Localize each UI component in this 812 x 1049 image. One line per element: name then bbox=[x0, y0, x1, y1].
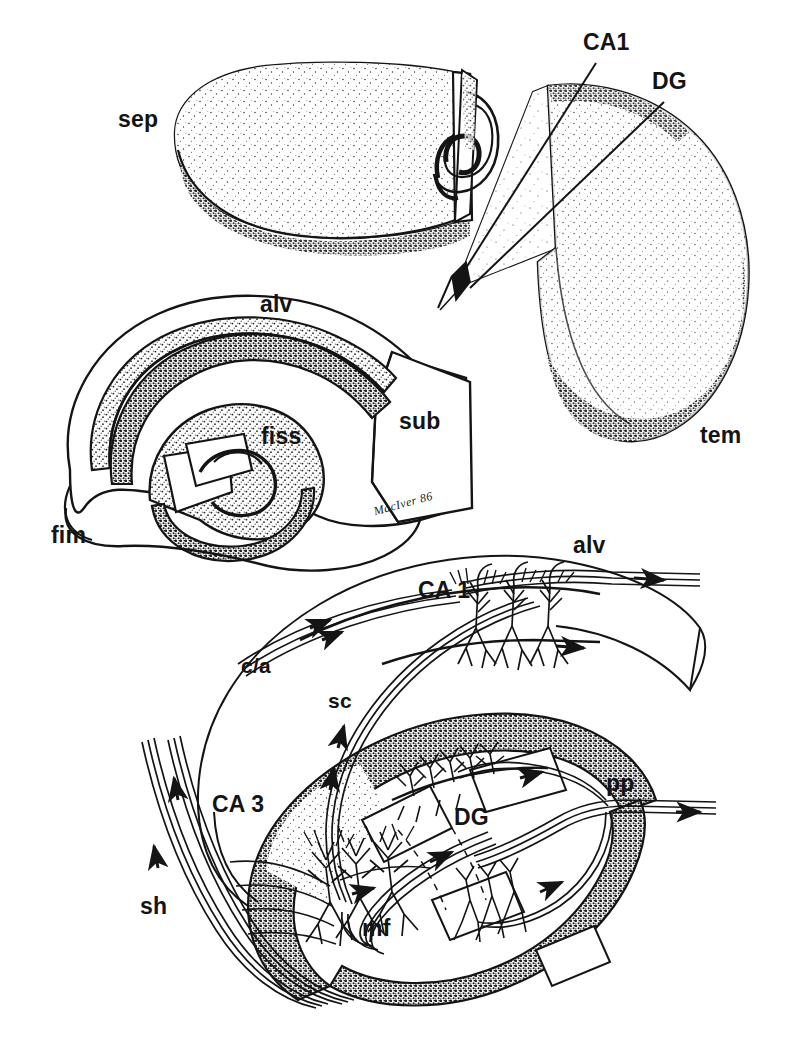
septal-body bbox=[175, 63, 470, 256]
label-dg-bottom: DG bbox=[454, 806, 489, 829]
label-fiss: fiss bbox=[261, 425, 301, 448]
label-ca3: CA 3 bbox=[212, 793, 264, 816]
diagram-canvas bbox=[0, 0, 812, 1049]
label-mf: mf bbox=[362, 917, 391, 940]
label-sc: sc bbox=[328, 690, 352, 711]
label-ca: c/a bbox=[241, 655, 271, 676]
label-dg-top: DG bbox=[652, 70, 687, 93]
label-sh: sh bbox=[140, 895, 167, 918]
hippocampus-figure: sep CA1 DG tem alv sub fiss fim MacIver … bbox=[0, 0, 812, 1049]
label-fim: fim bbox=[51, 524, 86, 547]
label-ca1-top: CA1 bbox=[583, 31, 630, 54]
label-pp: pp bbox=[606, 772, 635, 795]
label-ca1-bottom: CA 1 bbox=[418, 579, 470, 602]
label-tem: tem bbox=[700, 424, 742, 447]
label-alv-bottom: alv bbox=[573, 534, 606, 557]
label-sub: sub bbox=[399, 410, 441, 433]
temporal-body bbox=[438, 85, 748, 442]
label-alv-middle: alv bbox=[260, 293, 293, 316]
label-sep: sep bbox=[118, 108, 158, 131]
ca1-neurons bbox=[458, 562, 568, 670]
